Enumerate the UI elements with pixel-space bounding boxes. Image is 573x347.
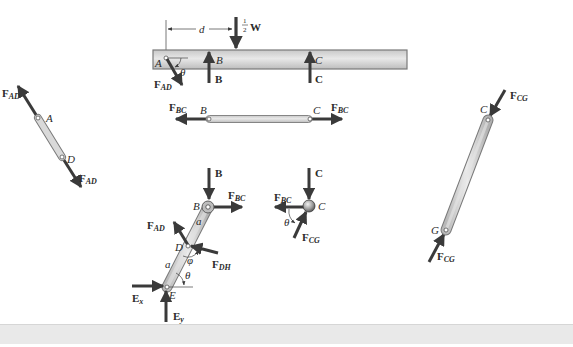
joint-angle-theta: θ <box>284 216 290 228</box>
member-point-e: E <box>168 289 176 301</box>
member-force-b-label: B <box>215 167 223 179</box>
beam-point-a: A <box>154 57 162 69</box>
page-bottom-band <box>0 324 573 344</box>
svg-text:2: 2 <box>243 26 247 34</box>
link-bc-force-left-label: FBC <box>169 101 187 115</box>
member-point-d: D <box>174 241 183 253</box>
link-cg-point-g: G <box>431 224 439 236</box>
member-angle-theta: θ <box>185 269 191 281</box>
joint-c-free-body: C FBC C θ FCG <box>274 167 326 245</box>
member-force-ey-label: Ey <box>173 310 184 324</box>
member-force-fad-label: FAD <box>147 219 165 233</box>
member-angle-phi: φ <box>187 254 193 266</box>
link-cg-free-body: C G FCG FCG <box>429 89 528 264</box>
joint-force-fbc-label: FBC <box>274 191 292 205</box>
link-ad-free-body: A D FAD FAD <box>2 86 97 187</box>
member-length-a-lower: a <box>165 258 171 270</box>
beam-force-b-label: B <box>215 73 223 85</box>
member-force-fbc-label: FBC <box>228 189 246 203</box>
link-cg-point-c: C <box>480 103 488 115</box>
link-ad-point-d: D <box>66 153 75 165</box>
beam-body <box>153 50 407 69</box>
link-cg-force-bottom-label: FCG <box>437 250 455 264</box>
joint-force-fcg-label: FCG <box>302 231 320 245</box>
joint-point-c: C <box>318 200 326 212</box>
beam-point-b: B <box>216 54 223 66</box>
link-ad-force-top-label: FAD <box>2 87 20 101</box>
link-bc-force-right-label: FBC <box>331 101 349 115</box>
beam-angle-theta: θ <box>180 66 186 78</box>
dimension-d-label: d <box>199 23 205 35</box>
beam-force-c-label: C <box>315 73 323 85</box>
load-half-w-arrow: 1 2 W <box>236 17 261 48</box>
beam-point-c: C <box>315 54 323 66</box>
link-ad-force-bottom-label: FAD <box>79 172 97 186</box>
link-bc-point-b: B <box>200 104 207 116</box>
link-cg-force-top-label: FCG <box>510 89 528 103</box>
joint-c-pin <box>303 200 315 212</box>
member-point-b: B <box>193 200 200 212</box>
joint-force-c-label: C <box>315 167 323 179</box>
member-bde-free-body: B FBC B a FAD D FDH φ a θ E Ex <box>132 167 246 324</box>
beam-force-fad-label: FAD <box>154 78 172 92</box>
beam-free-body: d 1 2 W A θ FAD B B C C <box>153 17 407 92</box>
member-force-ex-label: Ex <box>132 292 143 306</box>
svg-text:1: 1 <box>243 17 247 25</box>
link-bc-point-c: C <box>313 104 321 116</box>
dimension-d: d <box>166 20 232 50</box>
member-force-fdh-label: FDH <box>212 258 232 272</box>
load-w-label: W <box>250 21 261 33</box>
member-length-a-upper: a <box>196 215 202 227</box>
link-bc-free-body: B C FBC FBC <box>169 101 349 123</box>
link-ad-point-a: A <box>45 112 53 124</box>
